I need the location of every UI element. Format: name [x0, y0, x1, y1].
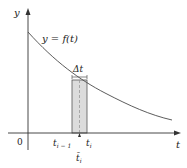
y-axis-label: y [13, 7, 20, 18]
right-edge-label: ti [86, 138, 92, 149]
left-edge-label: ti − 1 [53, 138, 71, 149]
sample-point-label: t̄i [76, 152, 82, 164]
riemann-diagram: y t 0 y = f(t) Δt ti − 1 ti t̄i [0, 0, 187, 168]
sample-arrow-icon [78, 133, 81, 137]
curve-label: y = f(t) [41, 33, 78, 44]
delta-label: Δt [72, 64, 83, 74]
curve-f [28, 32, 172, 120]
x-axis-arrow-icon [174, 131, 181, 136]
y-axis-arrow-icon [26, 8, 31, 15]
x-axis-label: t [176, 139, 181, 150]
origin-label: 0 [17, 137, 23, 147]
